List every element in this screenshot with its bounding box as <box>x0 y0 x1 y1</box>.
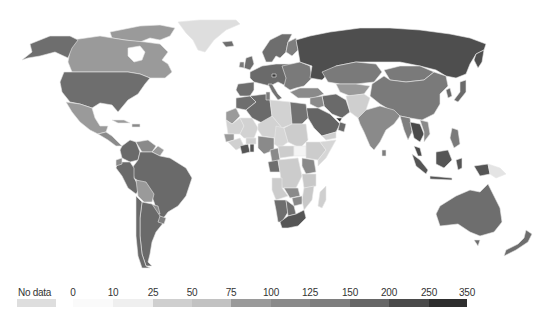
region-sumatra[interactable] <box>412 154 428 174</box>
legend-tick-350: 350 <box>459 287 475 298</box>
legend-tick-25: 25 <box>148 287 159 298</box>
legend-swatch-10-25 <box>113 299 153 307</box>
legend-tick-0: 0 <box>70 287 75 298</box>
region-korea[interactable] <box>446 88 452 98</box>
region-sri-lanka[interactable] <box>382 150 386 156</box>
world-map <box>0 0 556 285</box>
region-mali[interactable] <box>240 118 258 138</box>
region-burkina[interactable] <box>246 138 256 144</box>
legend-tick-200: 200 <box>381 287 397 298</box>
region-india[interactable] <box>358 106 400 150</box>
region-mexico[interactable] <box>66 102 108 134</box>
region-iraq[interactable] <box>310 96 324 108</box>
region-australia[interactable] <box>436 184 502 236</box>
region-java[interactable] <box>430 176 452 180</box>
region-west-papua[interactable] <box>474 164 490 176</box>
legend-swatch-200-250 <box>389 299 429 307</box>
legend-no-data-swatch <box>17 299 56 307</box>
region-papua-new-guinea[interactable] <box>488 164 506 178</box>
legend-tick-250: 250 <box>421 287 437 298</box>
legend-swatch-75-100 <box>231 299 271 307</box>
legend-swatch-125-150 <box>310 299 350 307</box>
region-philippines[interactable] <box>450 128 460 148</box>
legend-tick-75: 75 <box>226 287 237 298</box>
legend-tick-100: 100 <box>263 287 279 298</box>
region-egypt[interactable] <box>290 102 308 124</box>
legend-swatch-100-125 <box>271 299 310 307</box>
legend-tick-150: 150 <box>342 287 358 298</box>
region-tasmania[interactable] <box>474 240 480 246</box>
region-new-zealand[interactable] <box>504 230 532 256</box>
region-iberia[interactable] <box>236 82 254 96</box>
region-borneo[interactable] <box>436 150 452 168</box>
region-sulawesi[interactable] <box>456 158 462 170</box>
region-malaysia[interactable] <box>414 146 422 156</box>
legend-swatch-250-350 <box>429 299 467 307</box>
region-sudan[interactable] <box>284 124 308 148</box>
region-hispaniola[interactable] <box>132 124 140 127</box>
region-tunisia[interactable] <box>266 92 270 100</box>
legend-swatch-50-75 <box>192 299 231 307</box>
legend-no-data-label: No data <box>18 287 51 298</box>
region-car[interactable] <box>278 146 294 158</box>
region-ivory-coast[interactable] <box>240 144 250 154</box>
region-uk[interactable] <box>244 56 254 70</box>
region-myanmar[interactable] <box>400 116 412 140</box>
region-south-sudan[interactable] <box>294 146 306 156</box>
legend-swatch-150-200 <box>350 299 389 307</box>
legend-tick-50: 50 <box>187 287 198 298</box>
region-japan[interactable] <box>454 80 466 102</box>
region-eastern-europe[interactable] <box>282 62 312 90</box>
region-greenland[interactable] <box>178 20 240 52</box>
legend-tick-10: 10 <box>108 287 119 298</box>
region-madagascar[interactable] <box>318 186 326 208</box>
legend-swatch-0-10 <box>73 299 113 307</box>
region-iceland[interactable] <box>222 41 234 47</box>
region-zimbabwe[interactable] <box>292 196 302 206</box>
region-central-asia[interactable] <box>336 84 370 96</box>
region-hungary[interactable] <box>272 74 276 77</box>
region-uganda-kenya[interactable] <box>302 158 316 174</box>
region-ireland[interactable] <box>239 62 244 68</box>
region-central-america[interactable] <box>98 132 122 146</box>
region-ghana[interactable] <box>250 144 254 152</box>
map-legend: No data 0 10 25 50 75 100 125 150 200 25… <box>0 285 556 323</box>
legend-swatch-25-50 <box>153 299 192 307</box>
region-mozambique[interactable] <box>302 186 314 210</box>
region-cuba[interactable] <box>112 120 130 123</box>
legend-tick-125: 125 <box>302 287 318 298</box>
